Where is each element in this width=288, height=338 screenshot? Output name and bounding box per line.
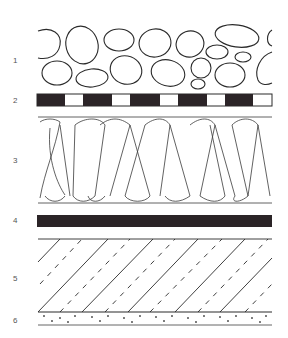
cross-section-diagram (0, 0, 288, 338)
vapour-barrier-layer (37, 215, 272, 227)
membrane-layer (37, 94, 272, 106)
insulation-layer (38, 117, 272, 203)
ceiling-layer (38, 315, 272, 325)
gravel-layer (38, 22, 272, 90)
deck-layer (38, 239, 272, 312)
